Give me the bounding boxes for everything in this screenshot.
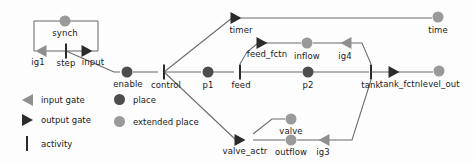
label-ig1: ig1 xyxy=(31,57,44,67)
node-feed[interactable] xyxy=(239,65,241,80)
node-enable[interactable] xyxy=(122,67,133,78)
label-synch: synch xyxy=(52,28,77,38)
place-icon xyxy=(112,94,126,105)
legend-item-output-gate: output gate xyxy=(20,114,91,126)
label-enable: enable xyxy=(113,79,142,89)
label-level-out: level_out xyxy=(420,79,459,89)
label-outflow: outflow xyxy=(275,147,307,157)
label-input: input xyxy=(82,57,104,67)
label-ig3: ig3 xyxy=(316,147,329,157)
label-time: time xyxy=(428,25,448,35)
legend-item-place: place xyxy=(112,94,156,105)
node-control[interactable] xyxy=(163,65,165,80)
node-p1[interactable] xyxy=(203,67,214,78)
label-control: control xyxy=(151,80,181,90)
legend-label-input-gate: input gate xyxy=(41,95,85,105)
node-timer[interactable] xyxy=(231,12,242,24)
label-p1: p1 xyxy=(202,80,213,90)
node-feed-fctn[interactable] xyxy=(257,37,268,49)
node-ig3[interactable] xyxy=(319,134,330,146)
node-tank-fctn[interactable] xyxy=(389,66,400,78)
extended-place-icon xyxy=(112,116,126,127)
node-p2[interactable] xyxy=(303,67,314,78)
label-step: step xyxy=(57,58,76,68)
label-valve-actr: valve_actr xyxy=(223,146,268,156)
san-diagram-canvas: synch ig1 step input enable control p1 f… xyxy=(0,0,473,164)
wire-control-timer xyxy=(164,18,232,72)
label-timer: timer xyxy=(229,25,252,35)
label-valve: valve xyxy=(279,126,302,136)
label-p2: p2 xyxy=(302,80,313,90)
legend-item-extended-place: extended place xyxy=(112,116,199,127)
label-tank: tank xyxy=(361,80,380,90)
node-valve-actr[interactable] xyxy=(235,134,246,146)
label-feed: feed xyxy=(231,80,250,90)
legend-label-activity: activity xyxy=(41,139,72,149)
legend-label-output-gate: output gate xyxy=(41,115,91,125)
node-inflow[interactable] xyxy=(302,38,313,49)
node-ig4[interactable] xyxy=(341,37,352,49)
node-time[interactable] xyxy=(433,12,444,23)
node-outflow[interactable] xyxy=(286,135,297,146)
output-gate-icon xyxy=(20,114,34,126)
node-valve[interactable] xyxy=(286,114,297,125)
node-ig1[interactable] xyxy=(36,45,47,57)
label-inflow: inflow xyxy=(294,51,320,61)
label-feed-fctn: feed_fctn xyxy=(247,49,287,59)
wire-ig4-tank xyxy=(351,43,371,64)
node-tank[interactable] xyxy=(370,65,372,80)
label-tank-fctn: tank_fctn xyxy=(380,79,420,89)
node-level-out[interactable] xyxy=(434,66,445,77)
node-input[interactable] xyxy=(82,45,93,57)
legend-label-extended-place: extended place xyxy=(133,117,199,127)
activity-icon xyxy=(20,136,34,151)
legend-label-place: place xyxy=(133,95,156,105)
node-step[interactable] xyxy=(65,44,67,59)
legend-item-activity: activity xyxy=(20,136,72,151)
input-gate-icon xyxy=(20,94,34,106)
legend-item-input-gate: input gate xyxy=(20,94,85,106)
label-ig4: ig4 xyxy=(338,51,351,61)
node-synch[interactable] xyxy=(60,16,71,27)
